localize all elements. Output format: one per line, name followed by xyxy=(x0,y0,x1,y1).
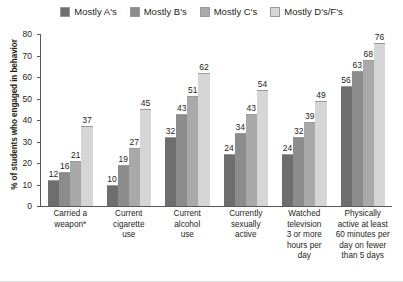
bar-value-label: 49 xyxy=(316,91,325,100)
bar-group: 24323949 xyxy=(275,34,334,206)
bar-value-label: 45 xyxy=(141,99,150,108)
y-axis-tick: 30 xyxy=(37,142,40,143)
category-label-line: hours per xyxy=(277,241,332,252)
category-label: Watchedtelevision3 or morehours perday xyxy=(275,209,334,262)
bar-value-label: 16 xyxy=(60,162,69,171)
legend-label: Mostly A's xyxy=(74,7,116,17)
bar-groups: 1216213710192745324351622434435424323949… xyxy=(41,34,392,206)
bar[interactable] xyxy=(341,86,352,206)
bar[interactable] xyxy=(140,109,151,206)
plot-area: 80706050403020100 1216213710192745324351… xyxy=(40,34,392,206)
category-label-line: weapon* xyxy=(43,220,98,231)
bar[interactable] xyxy=(304,122,315,206)
legend-item[interactable]: Mostly A's xyxy=(60,7,116,17)
bar-value-label: 63 xyxy=(352,61,361,70)
bar-value-label: 32 xyxy=(294,127,303,136)
bar-value-label: 43 xyxy=(247,104,256,113)
y-axis-tick-label: 50 xyxy=(23,94,32,104)
category-label-line: Watched xyxy=(277,209,332,220)
bar-column: 63 xyxy=(352,34,363,206)
bar-group: 56636876 xyxy=(334,34,393,206)
bar[interactable] xyxy=(246,114,257,206)
bar[interactable] xyxy=(70,161,81,206)
y-axis-tick: 10 xyxy=(37,185,40,186)
chart-legend: Mostly A'sMostly B'sMostly C'sMostly D's… xyxy=(0,7,403,17)
bar-column: 68 xyxy=(363,34,374,206)
bar[interactable] xyxy=(59,172,70,206)
bar[interactable] xyxy=(129,148,140,206)
bar[interactable] xyxy=(81,126,92,206)
bar[interactable] xyxy=(165,137,176,206)
bar-column: 43 xyxy=(246,34,257,206)
bar-value-label: 24 xyxy=(224,144,233,153)
bar-column: 32 xyxy=(293,34,304,206)
bar[interactable] xyxy=(235,133,246,206)
y-axis-tick-label: 40 xyxy=(23,115,32,125)
bar-value-label: 68 xyxy=(364,50,373,59)
category-label: Physicallyactive at least60 minutes perd… xyxy=(334,209,393,262)
category-label-line: day xyxy=(277,251,332,262)
bar[interactable] xyxy=(293,137,304,206)
category-label-line: Current xyxy=(160,209,215,220)
category-label: Currentcigaretteuse xyxy=(100,209,159,262)
bar-value-label: 76 xyxy=(375,33,384,42)
bar[interactable] xyxy=(224,154,235,206)
legend-item[interactable]: Mostly C's xyxy=(200,7,258,17)
legend-item[interactable]: Mostly B's xyxy=(130,7,187,17)
legend-swatch-icon xyxy=(60,7,70,17)
bar-column: 12 xyxy=(48,34,59,206)
bar-chart: Mostly A'sMostly B'sMostly C'sMostly D's… xyxy=(0,0,403,282)
bar-column: 19 xyxy=(118,34,129,206)
bar-column: 62 xyxy=(198,34,209,206)
y-axis-tick-label: 80 xyxy=(23,29,32,39)
bar-column: 37 xyxy=(81,34,92,206)
category-label-line: Physically xyxy=(336,209,391,220)
bar-column: 43 xyxy=(176,34,187,206)
bar-column: 51 xyxy=(187,34,198,206)
bar-value-label: 10 xyxy=(107,175,116,184)
bar-value-label: 62 xyxy=(199,63,208,72)
legend-swatch-icon xyxy=(200,7,210,17)
bar-value-label: 19 xyxy=(118,155,127,164)
category-label-line: 3 or more xyxy=(277,230,332,241)
bar-value-label: 54 xyxy=(258,80,267,89)
category-label-line: Currently xyxy=(219,209,274,220)
bar-column: 56 xyxy=(341,34,352,206)
category-label: Currentlysexuallyactive xyxy=(217,209,276,262)
category-label: Currentalcoholuse xyxy=(158,209,217,262)
bar[interactable] xyxy=(198,73,209,206)
legend-swatch-icon xyxy=(270,7,280,17)
bar-value-label: 32 xyxy=(166,127,175,136)
bar[interactable] xyxy=(176,114,187,206)
bar[interactable] xyxy=(257,90,268,206)
category-label-line: day on fewer xyxy=(336,241,391,252)
legend-label: Mostly D's/F's xyxy=(284,7,343,17)
category-label-line: 60 minutes per xyxy=(336,230,391,241)
bar[interactable] xyxy=(48,180,59,206)
category-label-line: sexually xyxy=(219,220,274,231)
y-axis-tick-label: 30 xyxy=(23,137,32,147)
bar[interactable] xyxy=(352,71,363,206)
y-axis-tick: 80 xyxy=(37,34,40,35)
y-axis-tick: 60 xyxy=(37,77,40,78)
bar[interactable] xyxy=(187,96,198,206)
bar-column: 45 xyxy=(140,34,151,206)
category-label-line: Current xyxy=(102,209,157,220)
x-axis-line xyxy=(40,206,392,207)
bar[interactable] xyxy=(374,43,385,206)
bar[interactable] xyxy=(315,101,326,206)
legend-item[interactable]: Mostly D's/F's xyxy=(270,7,343,17)
bar-value-label: 43 xyxy=(177,104,186,113)
bar[interactable] xyxy=(107,185,118,207)
y-axis-tick-label: 0 xyxy=(27,201,32,211)
bar-value-label: 34 xyxy=(235,123,244,132)
legend-label: Mostly B's xyxy=(144,7,187,17)
bar-value-label: 21 xyxy=(71,151,80,160)
legend-label: Mostly C's xyxy=(214,7,258,17)
bar-value-label: 12 xyxy=(49,170,58,179)
bar[interactable] xyxy=(363,60,374,206)
bar[interactable] xyxy=(282,154,293,206)
category-label-line: alcohol xyxy=(160,220,215,231)
bar[interactable] xyxy=(118,165,129,206)
y-axis-tick: 0 xyxy=(37,206,40,207)
